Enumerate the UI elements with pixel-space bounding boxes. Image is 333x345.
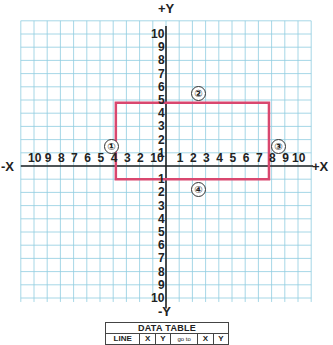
x-negative-label: -X: [1, 160, 14, 173]
x-tick-label-positive: 3: [203, 152, 210, 164]
x-tick-label-negative: 10: [28, 152, 41, 164]
y-tick-label-negative: 5: [158, 226, 165, 238]
y-tick-label-negative: 4: [158, 213, 165, 225]
x-tick-label-positive: 1: [177, 152, 184, 164]
x-tick-label-positive: 5: [230, 152, 237, 164]
x-tick-label-positive: 7: [256, 152, 263, 164]
x-tick-label-positive: 2: [190, 152, 197, 164]
y-tick-label-negative: 7: [158, 252, 165, 264]
x-tick-label-negative: 3: [124, 152, 131, 164]
data-table-title: DATA TABLE: [106, 323, 229, 334]
side-marker-3: ③: [271, 139, 286, 154]
y-tick-label-positive: 4: [158, 107, 165, 119]
header-x: X: [140, 334, 155, 345]
data-table: DATA TABLE LINE X Y go to X Y: [105, 322, 229, 345]
header-x2: X: [198, 334, 213, 345]
y-tick-label-positive: 8: [158, 54, 165, 66]
side-marker-1: ①: [104, 139, 119, 154]
x-positive-label: +X: [312, 160, 328, 173]
y-tick-label-positive: 2: [158, 134, 165, 146]
y-negative-label: -Y: [158, 305, 171, 318]
x-tick-label-negative: 8: [58, 152, 65, 164]
y-tick-label-negative: 3: [158, 200, 165, 212]
x-tick-label-negative: 7: [71, 152, 78, 164]
y-tick-label-positive: 5: [158, 94, 165, 106]
x-tick-label-negative: 6: [84, 152, 91, 164]
side-marker-2: ②: [191, 86, 206, 101]
header-y2: Y: [213, 334, 228, 345]
x-tick-label-positive: 8: [269, 152, 276, 164]
y-tick-label-positive: 3: [158, 120, 165, 132]
y-tick-label-negative: 1: [158, 173, 165, 185]
y-tick-label-positive: 7: [158, 68, 165, 80]
y-tick-label-negative: 8: [158, 266, 165, 278]
y-tick-label-positive: 9: [158, 41, 165, 53]
x-tick-label-positive: 4: [216, 152, 223, 164]
x-tick-label-negative: 5: [98, 152, 105, 164]
y-tick-label-negative: 10: [151, 292, 164, 304]
header-line: LINE: [106, 334, 140, 345]
y-tick-label-negative: 6: [158, 239, 165, 251]
y-tick-label-negative: 9: [158, 279, 165, 291]
y-tick-label-positive: 6: [158, 81, 165, 93]
side-marker-4: ④: [191, 182, 206, 197]
y-tick-label-positive: 1: [158, 147, 165, 159]
x-tick-label-positive: 10: [292, 152, 305, 164]
x-tick-label-negative: 1: [150, 152, 157, 164]
x-tick-label-positive: 6: [243, 152, 250, 164]
y-tick-label-negative: 2: [158, 186, 165, 198]
x-tick-label-negative: 9: [45, 152, 52, 164]
header-y: Y: [155, 334, 170, 345]
x-tick-label-negative: 2: [137, 152, 144, 164]
header-go-to: go to: [171, 334, 198, 345]
x-tick-label-positive: 9: [282, 152, 289, 164]
y-positive-label: +Y: [158, 2, 174, 15]
y-tick-label-positive: 10: [151, 28, 164, 40]
